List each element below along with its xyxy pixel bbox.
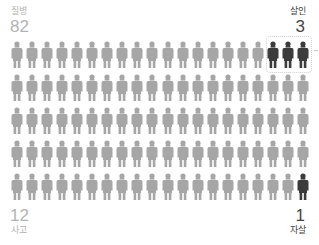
person-icon <box>11 74 23 102</box>
person-icon <box>192 173 204 201</box>
person-icon <box>237 107 249 135</box>
person-icon <box>71 74 83 102</box>
person-icon <box>131 74 143 102</box>
more-indicator[interactable]: ··· <box>313 47 318 56</box>
person-icon <box>282 74 294 102</box>
person-icon <box>101 107 113 135</box>
person-icon <box>131 41 143 69</box>
person-icon <box>11 140 23 168</box>
person-icon <box>26 74 38 102</box>
person-icon <box>86 140 98 168</box>
person-icon <box>11 41 23 69</box>
person-icon <box>86 41 98 69</box>
person-icon <box>237 41 249 69</box>
person-icon <box>71 173 83 201</box>
person-icon <box>252 140 264 168</box>
person-icon <box>41 173 53 201</box>
person-icon <box>146 173 158 201</box>
person-icon <box>162 74 174 102</box>
person-icon <box>116 173 128 201</box>
person-icon <box>116 140 128 168</box>
person-icon <box>71 107 83 135</box>
person-icon <box>71 140 83 168</box>
person-icon <box>252 173 264 201</box>
person-icon <box>116 74 128 102</box>
person-icon <box>162 173 174 201</box>
person-icon <box>146 74 158 102</box>
person-icon <box>222 41 234 69</box>
person-icon <box>252 74 264 102</box>
person-icon <box>56 140 68 168</box>
person-icon <box>237 173 249 201</box>
person-icon <box>41 107 53 135</box>
person-icon <box>192 140 204 168</box>
person-icon <box>101 173 113 201</box>
person-icon <box>177 74 189 102</box>
person-icon <box>222 173 234 201</box>
person-icon <box>26 173 38 201</box>
person-icon <box>177 140 189 168</box>
person-icon <box>192 74 204 102</box>
person-icon <box>222 140 234 168</box>
person-icon <box>56 173 68 201</box>
person-icon <box>26 140 38 168</box>
person-icon <box>267 74 279 102</box>
person-icon <box>207 140 219 168</box>
person-icon <box>86 74 98 102</box>
person-icon <box>252 107 264 135</box>
person-icon <box>192 107 204 135</box>
person-icon <box>56 107 68 135</box>
person-icon <box>237 140 249 168</box>
person-icon <box>131 107 143 135</box>
person-icon <box>207 107 219 135</box>
person-icon <box>101 74 113 102</box>
person-icon <box>86 173 98 201</box>
person-icon <box>237 74 249 102</box>
person-icon <box>146 107 158 135</box>
person-icon <box>11 173 23 201</box>
person-icon <box>207 74 219 102</box>
person-icon <box>207 173 219 201</box>
person-icon <box>192 41 204 69</box>
person-icon <box>297 107 309 135</box>
person-icon <box>297 74 309 102</box>
person-icon <box>71 41 83 69</box>
person-icon <box>146 140 158 168</box>
person-icon <box>41 140 53 168</box>
person-icon <box>162 107 174 135</box>
person-icon <box>177 173 189 201</box>
person-icon-dark <box>297 173 309 201</box>
person-icon <box>297 140 309 168</box>
person-icon <box>177 41 189 69</box>
person-icon <box>146 41 158 69</box>
person-icon <box>101 41 113 69</box>
person-icon <box>26 107 38 135</box>
person-icon <box>116 107 128 135</box>
person-icon <box>252 41 264 69</box>
person-icon <box>282 140 294 168</box>
person-icon <box>116 41 128 69</box>
person-icon <box>41 74 53 102</box>
person-icon <box>131 140 143 168</box>
person-icon <box>56 74 68 102</box>
person-icon <box>177 107 189 135</box>
person-icon <box>56 41 68 69</box>
person-icon <box>162 41 174 69</box>
person-icon <box>86 107 98 135</box>
person-icon <box>267 140 279 168</box>
person-icon <box>267 107 279 135</box>
person-icon <box>11 107 23 135</box>
person-icon <box>282 173 294 201</box>
person-icon <box>162 140 174 168</box>
person-icon <box>282 107 294 135</box>
person-icon <box>222 107 234 135</box>
person-icon <box>267 173 279 201</box>
person-icon <box>207 41 219 69</box>
person-icon <box>222 74 234 102</box>
person-icon <box>101 140 113 168</box>
person-icon <box>26 41 38 69</box>
person-icon <box>41 41 53 69</box>
homicide-highlight-box[interactable] <box>266 36 312 73</box>
person-icon <box>131 173 143 201</box>
